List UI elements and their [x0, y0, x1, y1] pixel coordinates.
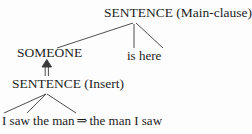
edge-insert-to-saw — [27, 94, 46, 113]
leaf-transformation-row: I saw the man⇒the man I saw — [2, 114, 162, 127]
leaf-result-string: the man I saw — [89, 114, 162, 127]
leaf-source-string: I saw the man — [2, 114, 75, 127]
edge-insert-to-theman — [47, 94, 76, 113]
edge-insert-to-i — [4, 94, 46, 113]
node-sentence-main-clause: SENTENCE (Main-clause) — [104, 6, 252, 20]
double-right-arrow-icon: ⇒ — [75, 114, 90, 127]
syntax-tree-figure: SENTENCE (Main-clause) SOMEONE is here S… — [0, 0, 252, 134]
node-someone: SOMEONE — [17, 46, 82, 60]
node-is-here: is here — [127, 49, 161, 62]
embed-double-arrow-icon — [42, 60, 52, 77]
edge-main-to-here — [136, 23, 163, 48]
node-sentence-insert: SENTENCE (Insert) — [12, 77, 124, 91]
